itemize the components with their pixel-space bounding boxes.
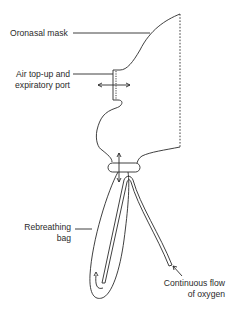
label-oxygen-line2: of oxygen bbox=[155, 289, 225, 300]
label-oronasal-mask: Oronasal mask bbox=[10, 28, 68, 39]
oxygen-tube bbox=[102, 176, 172, 283]
collar bbox=[108, 163, 140, 172]
mask-lower-edge bbox=[137, 147, 180, 163]
label-bag-line2: bag bbox=[18, 233, 71, 244]
label-oxygen: Continuous flow of oxygen bbox=[155, 278, 225, 300]
rebreathing-mask-diagram bbox=[0, 0, 234, 315]
label-port-line2: expiratory port bbox=[10, 80, 70, 91]
label-oxygen-line1: Continuous flow bbox=[155, 278, 225, 289]
label-port-line1: Air top-up and bbox=[10, 69, 70, 80]
mask-outline bbox=[96, 14, 180, 162]
label-port: Air top-up and expiratory port bbox=[10, 69, 70, 91]
label-bag-line1: Rebreathing bbox=[18, 222, 71, 233]
label-rebreathing-bag: Rebreathing bag bbox=[18, 222, 71, 244]
